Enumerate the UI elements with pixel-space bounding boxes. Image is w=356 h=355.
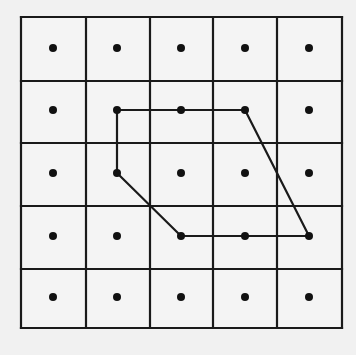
dot-grid-board — [0, 0, 356, 355]
grid-dot-r0-c3 — [241, 44, 249, 52]
grid-dot-r1-c0 — [49, 106, 57, 114]
grid-dot-r4-c2 — [177, 293, 185, 301]
grid-dot-r1-c4 — [305, 106, 313, 114]
grid-dot-r0-c1 — [113, 44, 121, 52]
grid-dot-r3-c2 — [177, 232, 185, 240]
grid-dot-r4-c4 — [305, 293, 313, 301]
grid-dot-r1-c2 — [177, 106, 185, 114]
grid-dot-r1-c3 — [241, 106, 249, 114]
grid-dot-r0-c4 — [305, 44, 313, 52]
grid-dot-r2-c1 — [113, 169, 121, 177]
grid-dot-r0-c0 — [49, 44, 57, 52]
grid-dot-r4-c0 — [49, 293, 57, 301]
grid-dot-r4-c1 — [113, 293, 121, 301]
grid-dot-r3-c0 — [49, 232, 57, 240]
diagram-canvas — [0, 0, 356, 355]
grid-dot-r1-c1 — [113, 106, 121, 114]
grid-dot-r2-c3 — [241, 169, 249, 177]
grid-dot-r3-c4 — [305, 232, 313, 240]
grid-dot-r0-c2 — [177, 44, 185, 52]
grid-dot-r3-c1 — [113, 232, 121, 240]
grid-dot-r4-c3 — [241, 293, 249, 301]
grid-dot-r3-c3 — [241, 232, 249, 240]
grid-dot-r2-c2 — [177, 169, 185, 177]
grid-dot-r2-c0 — [49, 169, 57, 177]
grid-dot-r2-c4 — [305, 169, 313, 177]
